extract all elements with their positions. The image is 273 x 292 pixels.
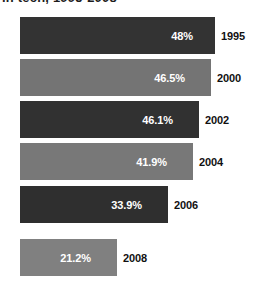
bar-value-label: 33.9%: [111, 199, 142, 211]
bar: 33.9%: [20, 186, 168, 223]
plot-area: 48% 1995 46.5% 2000 46.1% 2002 41.9% 200…: [0, 0, 273, 292]
bar-row: 46.5% 2000: [0, 59, 273, 96]
bar-value-label: 48%: [171, 30, 193, 42]
bar-value-label: 21.2%: [60, 252, 91, 264]
bar-category-label: 2002: [205, 114, 229, 126]
bar-value-label: 41.9%: [136, 156, 167, 168]
bar: 46.5%: [20, 59, 211, 96]
bar: 21.2%: [20, 239, 117, 276]
bar-row: 46.1% 2002: [0, 101, 273, 138]
bar-category-label: 2008: [123, 252, 147, 264]
bar-category-label: 2000: [217, 72, 241, 84]
bar-category-label: 1995: [221, 30, 245, 42]
bar: 46.1%: [20, 101, 199, 138]
bar-row: 41.9% 2004: [0, 143, 273, 180]
bar-value-label: 46.5%: [154, 72, 185, 84]
bar-category-label: 2004: [199, 156, 223, 168]
bar-row: 33.9% 2006: [0, 186, 273, 223]
bar-row: 48% 1995: [0, 17, 273, 54]
bar-chart: in tech, 1995-2008 48% 1995 46.5% 2000 4…: [0, 0, 273, 292]
bar: 48%: [20, 17, 215, 54]
bar-category-label: 2006: [174, 199, 198, 211]
bar-row: 21.2% 2008: [0, 239, 273, 276]
bar: 41.9%: [20, 143, 193, 180]
bar-value-label: 46.1%: [142, 114, 173, 126]
